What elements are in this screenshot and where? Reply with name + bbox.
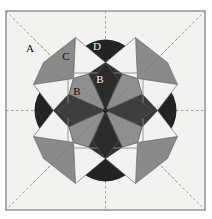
geometric-pattern-figure: A C D B B: [0, 0, 212, 219]
label-C: C: [62, 50, 69, 62]
label-D: D: [93, 40, 101, 52]
label-A: A: [26, 42, 34, 54]
label-B-outer: B: [73, 85, 80, 97]
label-B-inner: B: [96, 73, 103, 85]
figure-container: A C D B B: [0, 0, 212, 219]
